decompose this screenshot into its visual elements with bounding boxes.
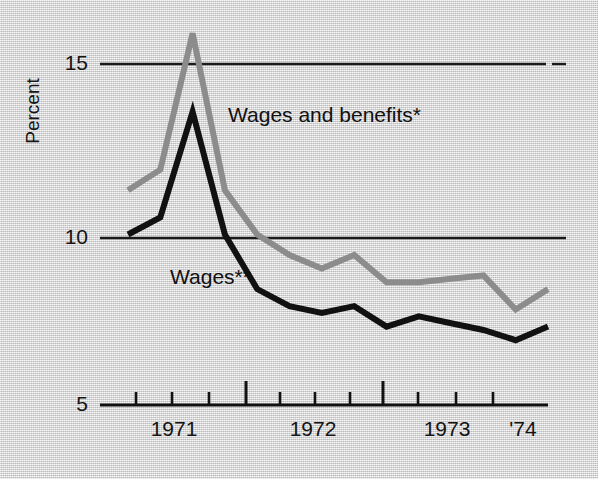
- series-label-wages: Wages**: [170, 265, 251, 289]
- x-tick-label-1974: '74: [496, 417, 550, 441]
- series-label-wages-and-benefits: Wages and benefits*: [228, 103, 421, 127]
- line-chart-canvas: [0, 0, 598, 479]
- x-tick-label-1973: 1973: [411, 417, 483, 441]
- y-tick-label-10: 10: [44, 225, 88, 249]
- y-tick-label-15: 15: [44, 51, 88, 75]
- x-axis-ticks: [136, 381, 493, 405]
- y-axis-title: Percent: [22, 56, 44, 166]
- gridlines: [100, 64, 566, 238]
- y-tick-label-5: 5: [44, 392, 88, 416]
- series-line-wages: [128, 112, 548, 341]
- x-tick-label-1971: 1971: [138, 417, 210, 441]
- chart-figure: 15 10 5 Percent 1971 1972 1973 '74 Wages…: [0, 0, 598, 479]
- x-tick-label-1972: 1972: [277, 417, 349, 441]
